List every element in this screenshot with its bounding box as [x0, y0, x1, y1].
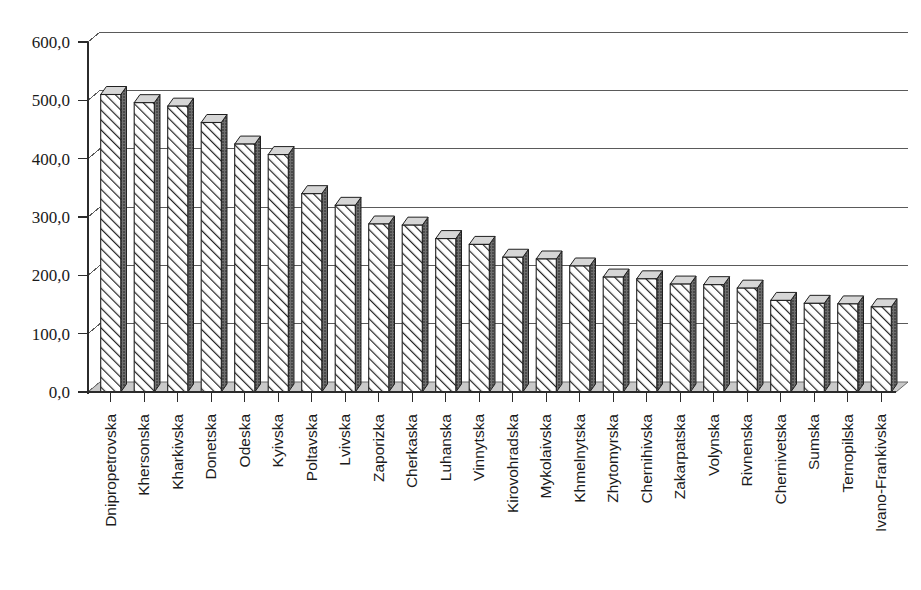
x-axis-category-label: Chernihivska [638, 414, 655, 504]
bar [469, 236, 495, 392]
bar [201, 115, 227, 393]
x-axis-category-label: Chernivetska [772, 414, 789, 505]
bar-side-face [657, 271, 663, 392]
bar [302, 186, 328, 392]
bar-side-face [355, 197, 361, 392]
bar-side-face [489, 236, 495, 392]
bar-front-face [101, 95, 121, 393]
bar [402, 217, 428, 392]
bar-front-face [536, 259, 556, 392]
bar-side-face [757, 280, 763, 392]
bar-front-face [302, 194, 322, 392]
x-axis-category-label: Khmelnytska [571, 414, 588, 503]
bar-side-face [456, 231, 462, 392]
bar-side-face [121, 87, 127, 393]
bar-side-face [523, 249, 529, 392]
bar-front-face [369, 224, 389, 392]
x-axis-category-label: Kyivska [269, 414, 286, 468]
x-axis-category-label: Rivnenska [738, 414, 755, 487]
gridline [88, 32, 908, 42]
y-axis-tick-label: 400,0 [32, 150, 70, 169]
y-axis-tick-label: 0,0 [49, 383, 70, 402]
bar [536, 251, 562, 392]
bar [436, 231, 462, 392]
chart-canvas: 0,0100,0200,0300,0400,0500,0600,0 Dnipro… [0, 0, 921, 590]
y-axis-tick-label: 500,0 [32, 91, 70, 110]
bar [101, 87, 127, 393]
y-axis-tick-label: 300,0 [32, 208, 70, 227]
bar [603, 269, 629, 392]
bar-front-face [436, 239, 456, 392]
x-axis-category-label: Cherkaska [403, 414, 420, 488]
bar-front-face [402, 225, 422, 392]
x-axis-labels: DnipropetrovskaKhersonskaKharkivskaDonet… [102, 414, 890, 532]
x-axis-category-label: Sumska [805, 414, 822, 470]
bar-side-face [791, 292, 797, 392]
bar [268, 147, 294, 392]
bar-front-face [804, 303, 824, 392]
bar [369, 216, 395, 392]
bar-front-face [737, 288, 757, 392]
bar-front-face [335, 205, 355, 392]
bar [503, 249, 529, 392]
bar-side-face [389, 216, 395, 392]
bar [168, 98, 194, 392]
bar [235, 136, 261, 392]
x-axis-category-label: Odeska [236, 414, 253, 468]
x-axis-category-label: Donetska [202, 414, 219, 480]
bar-side-face [188, 98, 194, 392]
bar-front-face [134, 103, 154, 392]
x-axis-category-label: Vinnytska [470, 414, 487, 481]
bar [570, 258, 596, 392]
bar-side-face [422, 217, 428, 392]
bar [804, 295, 830, 392]
bar-front-face [503, 257, 523, 392]
bar-side-face [891, 299, 897, 392]
bar-side-face [858, 296, 864, 392]
x-axis-category-label: Kirovohradska [504, 414, 521, 513]
bar-front-face [603, 277, 623, 392]
bar-front-face [235, 144, 255, 392]
bar-front-face [637, 279, 657, 392]
bar [637, 271, 663, 392]
x-axis-category-label: Poltavska [303, 414, 320, 482]
y-axis-tick-label: 600,0 [32, 33, 70, 52]
bar-front-face [570, 266, 590, 392]
bar [670, 276, 696, 392]
bar [871, 299, 897, 392]
bar-front-face [469, 244, 489, 392]
y-axis-tick-label: 200,0 [32, 266, 70, 285]
bar-front-face [838, 304, 858, 392]
x-axis-category-label: Kharkivska [169, 414, 186, 490]
bar-front-face [704, 285, 724, 392]
bar-side-face [322, 186, 328, 392]
bar [704, 277, 730, 392]
x-axis-category-label: Zhytomyrska [604, 414, 621, 503]
bar-chart: 0,0100,0200,0300,0400,0500,0600,0 Dnipro… [0, 0, 921, 590]
bars-group [101, 87, 897, 393]
bar-front-face [168, 106, 188, 392]
bar-front-face [871, 307, 891, 392]
bar-side-face [690, 276, 696, 392]
bar-side-face [623, 269, 629, 392]
bar-side-face [590, 258, 596, 392]
x-axis-category-label: Lvivska [336, 414, 353, 466]
x-axis-category-label: Ivano-Frankivska [872, 414, 889, 532]
x-axis-category-label: Zakarpatska [671, 414, 688, 500]
x-axis-category-label: Zaporizka [370, 414, 387, 482]
bar [335, 197, 361, 392]
x-axis-category-label: Luhanska [437, 414, 454, 482]
gridline [88, 90, 908, 100]
bar [134, 95, 160, 392]
bar-front-face [670, 284, 690, 392]
bar-front-face [771, 300, 791, 392]
x-axis-category-label: Ternopilska [839, 414, 856, 493]
bar-front-face [201, 123, 221, 393]
x-axis-category-label: Dnipropetrovska [102, 414, 119, 527]
bar-side-face [824, 295, 830, 392]
y-axis-tick-label: 100,0 [32, 325, 70, 344]
bar-front-face [268, 155, 288, 392]
bar [737, 280, 763, 392]
bar [838, 296, 864, 392]
x-axis-category-label: Mykolaivska [537, 414, 554, 499]
